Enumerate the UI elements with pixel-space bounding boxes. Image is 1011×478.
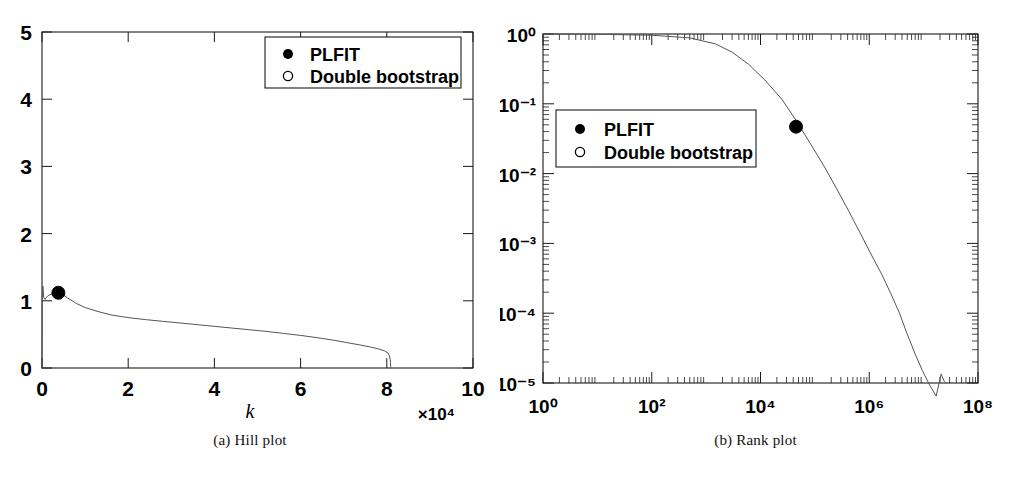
plfit-marker-a [52,286,65,299]
x-axis-ticks-b [543,34,978,383]
hill-plot-svg: 0 1 2 3 4 5 0 2 4 6 8 10 k ×10⁴ [0,0,500,430]
panel-hill-plot: 0 1 2 3 4 5 0 2 4 6 8 10 k ×10⁴ [0,0,500,478]
legend-label-plfit: PLFIT [310,45,360,65]
x-axis-exponent-label: ×10⁴ [418,405,455,424]
y-tick-label: 2 [20,223,32,246]
plfit-marker-b [790,120,803,133]
y-tick-label: 10⁻⁴ [500,304,536,325]
x-tick-label: 10⁴ [745,396,776,417]
y-tick-labels-a: 0 1 2 3 4 5 [20,21,32,380]
x-tick-label: 2 [122,377,134,400]
hill-estimator-curve [42,286,391,368]
y-tick-label: 5 [20,21,32,44]
y-axis-ticks-b [543,34,978,383]
legend-marker-double-bootstrap-icon [575,147,584,156]
panel-caption-rank-plot: (b) Rank plot [500,432,1011,449]
ccdf-curve [543,34,946,396]
y-tick-labels-b: 10⁰ 10⁻¹ 10⁻² 10⁻³ 10⁻⁴ 10⁻⁵ [500,25,536,395]
legend-marker-plfit-icon [575,124,585,134]
y-axis-ticks-right-a [463,32,473,368]
y-tick-label: 10⁻³ [500,234,536,255]
x-tick-label: 10⁶ [854,396,884,417]
minor-ticks-b [543,34,978,383]
panel-rank-plot: 10⁰ 10⁻¹ 10⁻² 10⁻³ 10⁻⁴ 10⁻⁵ 10⁰ 10² 10⁴… [500,0,1011,478]
plot-frame-b [543,34,978,383]
x-axis-title: k [246,400,256,422]
x-tick-labels-a: 0 2 4 6 8 10 [36,377,485,400]
x-tick-label: 4 [209,377,221,400]
x-tick-label: 10⁸ [963,396,993,417]
y-tick-label: 1 [20,290,32,313]
rank-plot-svg: 10⁰ 10⁻¹ 10⁻² 10⁻³ 10⁻⁴ 10⁻⁵ 10⁰ 10² 10⁴… [500,0,1011,430]
x-tick-label: 10⁰ [528,396,557,417]
x-tick-label: 6 [295,377,307,400]
y-tick-label: 0 [20,357,32,380]
y-tick-label: 4 [20,88,32,111]
x-tick-label: 10² [638,396,665,417]
x-tick-labels-b: 10⁰ 10² 10⁴ 10⁶ 10⁸ [528,396,993,417]
legend-marker-plfit-icon [283,49,293,59]
x-tick-label: 10 [461,377,484,400]
legend-label-plfit: PLFIT [604,120,654,140]
x-tick-label: 8 [381,377,393,400]
y-tick-label: 10⁻¹ [500,95,536,116]
legend-a: PLFIT Double bootstrap [265,37,461,88]
y-axis-ticks-a [42,32,52,368]
legend-marker-double-bootstrap-icon [283,71,292,80]
legend-label-double-bootstrap: Double bootstrap [310,67,459,87]
legend-label-double-bootstrap: Double bootstrap [604,143,753,163]
y-tick-label: 10⁻⁵ [500,374,536,395]
y-tick-label: 10⁻² [500,165,536,186]
x-tick-label: 0 [36,377,48,400]
y-tick-label: 10⁰ [507,25,536,46]
figure-root: 0 1 2 3 4 5 0 2 4 6 8 10 k ×10⁴ [0,0,1011,478]
x-axis-ticks-a [42,358,473,368]
legend-b: PLFIT Double bootstrap [556,110,756,167]
panel-caption-hill-plot: (a) Hill plot [0,432,500,449]
y-tick-label: 3 [20,155,32,178]
